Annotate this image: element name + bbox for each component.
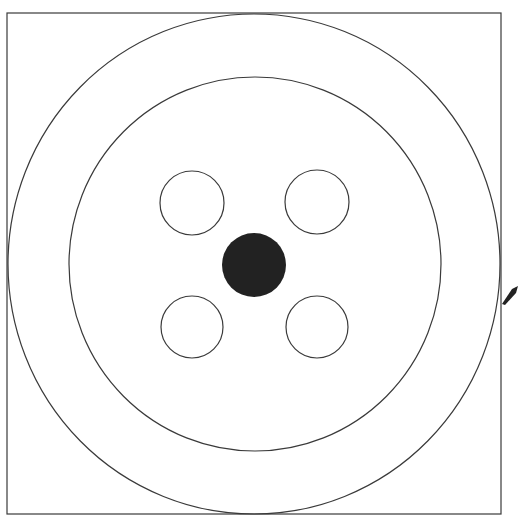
button-diagram — [0, 0, 518, 521]
center-dot — [222, 233, 286, 297]
